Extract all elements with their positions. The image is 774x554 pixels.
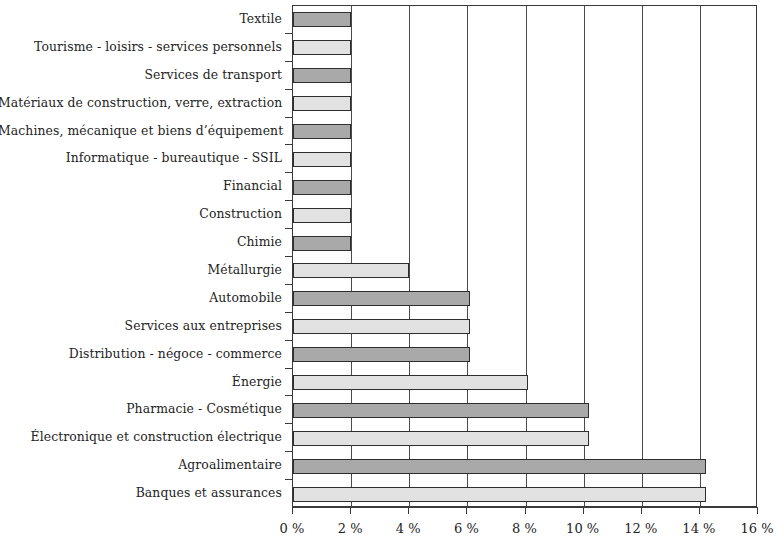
x-axis-tick (525, 507, 526, 514)
category-label: Informatique - bureautique - SSIL (0, 151, 282, 165)
bar (293, 124, 351, 139)
x-axis-tick (699, 507, 700, 514)
x-axis-tick (583, 507, 584, 514)
gridline-14-percent (700, 6, 701, 506)
category-axis-tick (285, 340, 292, 341)
category-axis-tick (285, 479, 292, 480)
bar (293, 12, 351, 27)
plot-area (292, 5, 757, 507)
x-axis-tick (641, 507, 642, 514)
category-label: Construction (0, 207, 282, 221)
category-axis-tick (285, 423, 292, 424)
category-axis-tick (285, 33, 292, 34)
category-axis-tick (285, 61, 292, 62)
category-label: Distribution - négoce - commerce (0, 346, 282, 360)
bar (293, 431, 589, 446)
x-axis-tick-label: 16 % (740, 521, 773, 536)
bar (293, 96, 351, 111)
category-axis-tick (285, 89, 292, 90)
bar (293, 152, 351, 167)
gridline-12-percent (642, 6, 643, 506)
category-label: Chimie (0, 235, 282, 249)
bar (293, 375, 528, 390)
bar (293, 68, 351, 83)
category-label: Tourisme - loisirs - services personnels (0, 39, 282, 53)
bar (293, 403, 589, 418)
x-axis-tick (292, 507, 293, 514)
bar (293, 236, 351, 251)
category-axis-tick (285, 117, 292, 118)
x-axis-tick-label: 4 % (396, 521, 421, 536)
bar (293, 180, 351, 195)
category-label: Énergie (0, 374, 282, 388)
category-label: Services aux entreprises (0, 318, 282, 332)
category-label: Agroalimentaire (0, 458, 282, 472)
x-axis-tick-label: 2 % (338, 521, 363, 536)
x-axis-tick (408, 507, 409, 514)
category-label: Pharmacie - Cosmétique (0, 402, 282, 416)
bar (293, 347, 470, 362)
category-axis-tick (285, 395, 292, 396)
x-axis-tick-label: 0 % (280, 521, 305, 536)
bar (293, 291, 470, 306)
bar (293, 208, 351, 223)
category-label: Automobile (0, 290, 282, 304)
category-axis-tick (285, 312, 292, 313)
category-axis-tick (285, 200, 292, 201)
category-label: Banques et assurances (0, 486, 282, 500)
category-label: Services de transport (0, 67, 282, 81)
category-axis-tick (285, 368, 292, 369)
bar (293, 263, 409, 278)
x-axis-tick-label: 14 % (682, 521, 715, 536)
category-axis-labels: TextileTourisme - loisirs - services per… (0, 5, 288, 507)
x-axis-tick (350, 507, 351, 514)
category-label: Textile (0, 12, 282, 26)
x-axis-tick (757, 507, 758, 514)
x-axis-tick (466, 507, 467, 514)
category-label: Financial (0, 179, 282, 193)
category-label: Métallurgie (0, 263, 282, 277)
x-axis-tick-label: 8 % (512, 521, 537, 536)
bar (293, 487, 706, 502)
category-label: Matériaux de construction, verre, extrac… (0, 95, 282, 109)
category-axis-tick (285, 451, 292, 452)
category-label: Électronique et construction électrique (0, 430, 282, 444)
bar (293, 459, 706, 474)
category-axis-tick (285, 256, 292, 257)
bar (293, 40, 351, 55)
bar (293, 319, 470, 334)
x-axis-tick-label: 10 % (566, 521, 599, 536)
x-axis-tick-label: 12 % (624, 521, 657, 536)
category-label: Machines, mécanique et biens d’équipemen… (0, 123, 282, 137)
x-axis-tick-label: 6 % (454, 521, 479, 536)
category-axis-tick (285, 144, 292, 145)
category-axis-tick (285, 172, 292, 173)
category-axis-tick (285, 284, 292, 285)
category-axis-tick (285, 228, 292, 229)
